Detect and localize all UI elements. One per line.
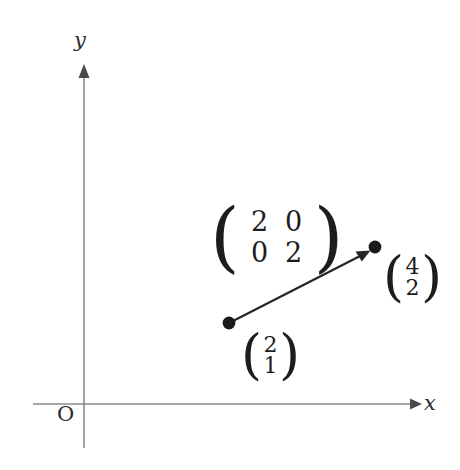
image-vector-row: 2 — [404, 277, 421, 298]
image-vector-cell: 2 — [404, 277, 421, 298]
linear-transformation-figure: y x O ( 2 0 0 2 ) ( 2 1 ) — [0, 0, 460, 470]
matrix-cell: 0 — [243, 237, 277, 268]
image-vector-label: ( 4 2 ) — [383, 255, 442, 299]
source-vector-row: 1 — [262, 355, 279, 376]
matrix-row: 0 2 — [243, 237, 311, 268]
source-vector-cell: 1 — [262, 355, 279, 376]
source-vector-close-paren: ) — [279, 333, 300, 377]
image-vector-open-paren: ( — [383, 255, 404, 299]
image-vector-cell: 4 — [404, 256, 421, 277]
image-vector-close-paren: ) — [421, 255, 442, 299]
y-axis-label: y — [74, 30, 86, 51]
image-point-dot — [369, 241, 382, 254]
matrix-grid: 2 0 0 2 — [240, 206, 314, 268]
matrix-open-paren: ( — [210, 206, 240, 268]
matrix-cell: 2 — [243, 206, 277, 237]
transformation-matrix: ( 2 0 0 2 ) — [210, 206, 343, 268]
source-point-dot — [223, 317, 236, 330]
image-vector-grid: 4 2 — [404, 256, 421, 298]
source-vector-open-paren: ( — [241, 333, 262, 377]
source-vector-label: ( 2 1 ) — [241, 333, 300, 377]
source-vector-row: 2 — [262, 334, 279, 355]
matrix-cell: 0 — [277, 206, 311, 237]
matrix-row: 2 0 — [243, 206, 311, 237]
matrix-cell: 2 — [277, 237, 311, 268]
matrix-close-paren: ) — [314, 206, 344, 268]
x-axis-label: x — [424, 393, 436, 414]
image-vector-row: 4 — [404, 256, 421, 277]
source-vector-grid: 2 1 — [262, 334, 279, 376]
origin-label: O — [57, 404, 74, 425]
source-vector-cell: 2 — [262, 334, 279, 355]
